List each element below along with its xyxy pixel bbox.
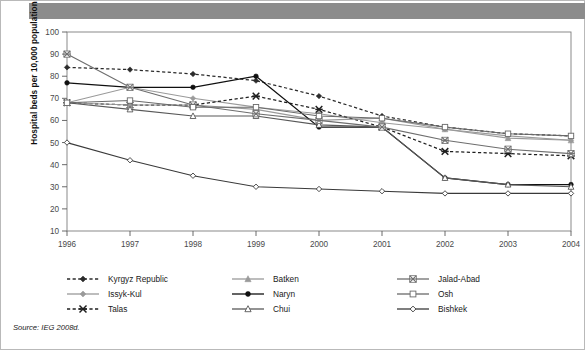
series-bishkek [64, 140, 573, 196]
chart-figure: Hospital beds per 10,000 population 1020… [0, 0, 585, 350]
y-tick-label: 50 [50, 139, 60, 148]
legend-label: Talas [108, 304, 127, 314]
y-tick-label: 20 [50, 205, 60, 214]
legend-label: Batken [273, 274, 299, 284]
legend-swatch [393, 272, 433, 286]
legend-item-talas[interactable]: Talas [63, 301, 168, 316]
legend-label: Jalad-Abad [438, 274, 480, 284]
y-tick-label: 70 [50, 94, 60, 103]
x-tick-label: 2001 [373, 240, 392, 249]
legend-item-batken[interactable]: Batken [228, 271, 299, 286]
legend-item-jalad-abad[interactable]: Jalad-Abad [393, 271, 480, 286]
x-tick-label: 1999 [247, 240, 266, 249]
legend-swatch [228, 287, 268, 301]
x-tick-label: 2003 [499, 240, 518, 249]
legend-label: Issyk-Kul [108, 289, 142, 299]
legend-label: Kyrgyz Republic [108, 274, 168, 284]
legend-item-osh[interactable]: Osh [393, 286, 480, 301]
legend-label: Osh [438, 289, 453, 299]
legend-item-chui[interactable]: Chui [228, 301, 299, 316]
source-note: Source: IEG 2008d. [13, 323, 80, 332]
chart-legend: Kyrgyz RepublicIssyk-KulTalasBatkenNaryn… [63, 271, 563, 317]
x-tick-label: 2000 [310, 240, 329, 249]
legend-item-kyrgyz-republic[interactable]: Kyrgyz Republic [63, 271, 168, 286]
y-tick-label: 30 [50, 183, 60, 192]
ticks-layer: 1020304050607080901001996199719981999200… [45, 28, 580, 249]
legend-column: BatkenNarynChui [228, 271, 299, 316]
legend-item-naryn[interactable]: Naryn [228, 286, 299, 301]
x-tick-label: 2004 [562, 240, 581, 249]
series-layer [63, 51, 574, 196]
series-jalad-abad [63, 51, 574, 157]
x-tick-label: 1997 [121, 240, 140, 249]
y-tick-label: 100 [45, 28, 59, 37]
series-osh [64, 98, 573, 139]
y-tick-label: 10 [50, 227, 60, 236]
line-chart-plot: 1020304050607080901001996199719981999200… [1, 1, 585, 266]
y-tick-label: 90 [50, 50, 60, 59]
legend-swatch [228, 272, 268, 286]
y-tick-label: 40 [50, 161, 60, 170]
legend-swatch [63, 302, 103, 316]
x-tick-label: 1996 [58, 240, 77, 249]
x-tick-label: 1998 [184, 240, 203, 249]
legend-swatch [393, 287, 433, 301]
legend-column: Jalad-AbadOshBishkek [393, 271, 480, 316]
legend-column: Kyrgyz RepublicIssyk-KulTalas [63, 271, 168, 316]
legend-swatch [63, 272, 103, 286]
legend-swatch [63, 287, 103, 301]
legend-label: Bishkek [438, 304, 467, 314]
y-tick-label: 80 [50, 72, 60, 81]
legend-label: Chui [273, 304, 290, 314]
legend-item-bishkek[interactable]: Bishkek [393, 301, 480, 316]
legend-item-issyk-kul[interactable]: Issyk-Kul [63, 286, 168, 301]
y-tick-label: 60 [50, 116, 60, 125]
legend-swatch [228, 302, 268, 316]
legend-label: Naryn [273, 289, 295, 299]
x-tick-label: 2002 [436, 240, 455, 249]
legend-swatch [393, 302, 433, 316]
